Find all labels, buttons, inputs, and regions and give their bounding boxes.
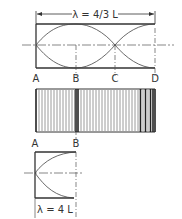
density-bars bbox=[36, 89, 155, 132]
point-label-d: D bbox=[151, 73, 159, 84]
standing-wave-diagram: λ = 4/3 L A B C D A B bbox=[0, 0, 182, 219]
arrow-right-icon bbox=[149, 12, 154, 16]
point-label-a-bottom: A bbox=[32, 138, 39, 149]
point-label-b: B bbox=[73, 73, 80, 84]
small-envelope-lower bbox=[35, 173, 74, 198]
arrow-left-icon bbox=[37, 12, 42, 16]
wavelength-label-bottom: λ = 4 L bbox=[37, 204, 73, 215]
wavelength-label-top: λ = 4/3 L bbox=[72, 9, 118, 20]
small-envelope-upper bbox=[35, 152, 76, 173]
wave-envelope-upper bbox=[36, 24, 155, 45]
wave-envelope-lower bbox=[36, 45, 155, 68]
bar-lines bbox=[36, 89, 155, 132]
point-label-a: A bbox=[33, 73, 40, 84]
top-tube-diagram: λ = 4/3 L A B C D bbox=[22, 9, 174, 84]
bottom-tube-diagram: A B λ = 4 L bbox=[24, 132, 84, 218]
point-label-c: C bbox=[112, 73, 119, 84]
